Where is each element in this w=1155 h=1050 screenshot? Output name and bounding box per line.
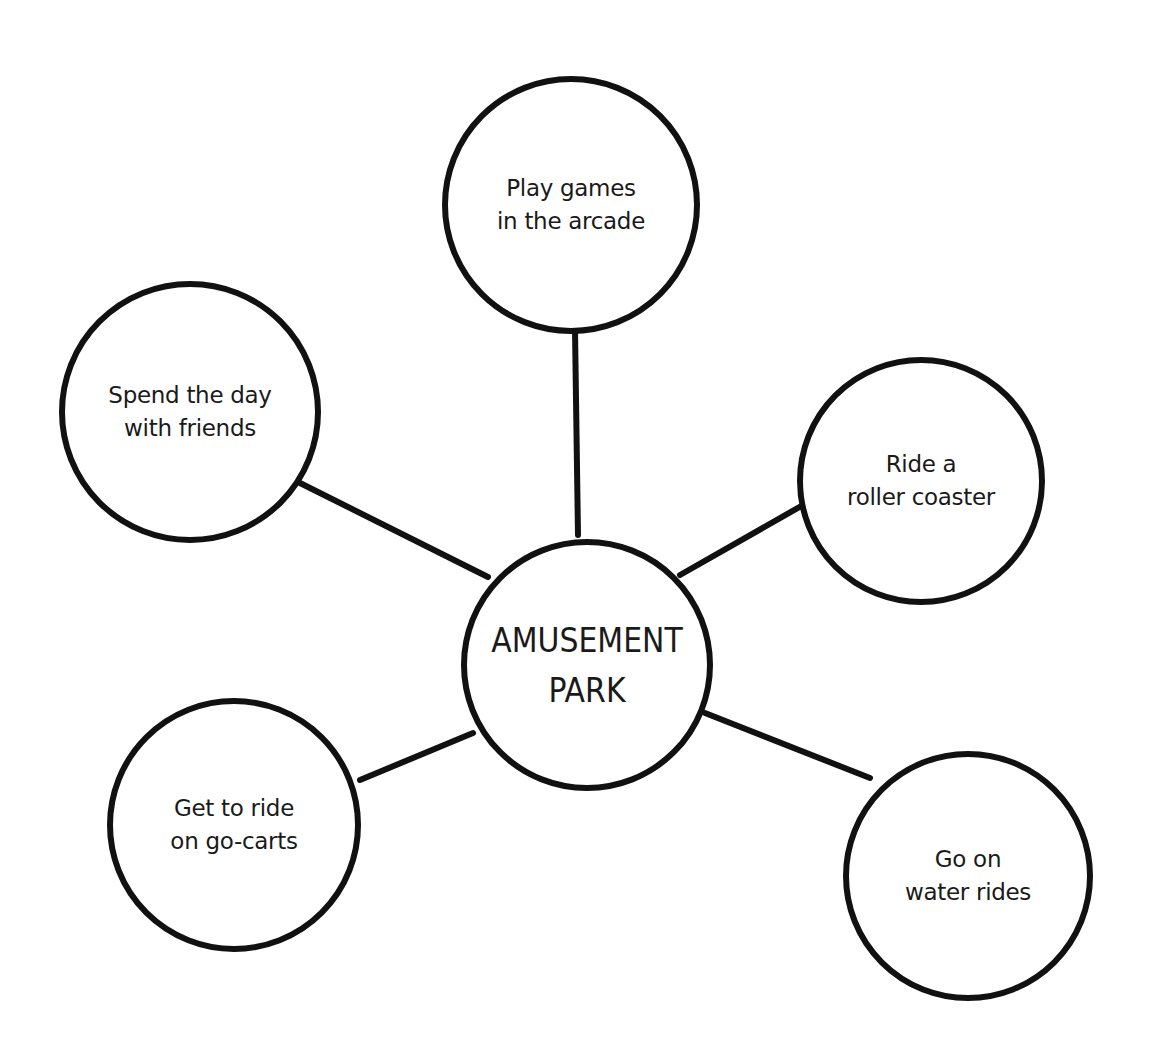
center-bubble-label: AMUSEMENT PARK <box>491 615 682 715</box>
bubble-arcade-label: Play games in the arcade <box>497 172 645 238</box>
bubble-roller-coaster-line-1: Ride a <box>847 448 995 481</box>
center-label-line-1: AMUSEMENT <box>491 615 682 665</box>
bubble-water-rides-line-2: water rides <box>905 876 1031 909</box>
connector-center-friends <box>300 483 488 577</box>
connector-center-go-carts <box>360 733 473 780</box>
center-label-line-2: PARK <box>491 665 682 715</box>
connector-center-roller-coaster <box>680 505 803 575</box>
bubble-go-carts-line-1: Get to ride <box>170 792 297 825</box>
bubble-friends-line-2: with friends <box>108 412 271 445</box>
bubble-water-rides-line-1: Go on <box>905 843 1031 876</box>
bubble-arcade-line-2: in the arcade <box>497 205 645 238</box>
bubble-go-carts-line-2: on go-carts <box>170 825 297 858</box>
bubble-friends-line-1: Spend the day <box>108 379 271 412</box>
bubble-water-rides-label: Go on water rides <box>905 843 1031 909</box>
bubble-roller-coaster-label: Ride a roller coaster <box>847 448 995 514</box>
connector-center-water-rides <box>705 713 870 778</box>
connector-center-arcade <box>575 330 578 535</box>
bubble-go-carts-label: Get to ride on go-carts <box>170 792 297 858</box>
bubble-arcade-line-1: Play games <box>497 172 645 205</box>
bubble-roller-coaster-line-2: roller coaster <box>847 481 995 514</box>
bubble-friends-label: Spend the day with friends <box>108 379 271 445</box>
